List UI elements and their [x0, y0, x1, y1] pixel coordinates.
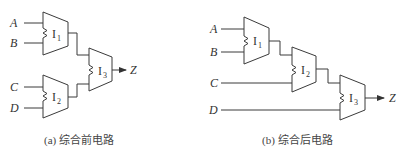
mux-i2-b: I 2 — [292, 47, 316, 92]
diagram-b: I 1 I 2 I 3 A B C D Z (b) 综合后电路 — [208, 17, 396, 147]
instance-label: I — [98, 64, 102, 78]
caption-b: (b) 综合后电路 — [262, 133, 333, 147]
wire-i1-to-i3 — [68, 33, 89, 55]
instance-label: I — [349, 91, 353, 105]
instance-subscript: 2 — [306, 70, 310, 79]
signal-label-a: A — [9, 16, 18, 30]
signal-label-z: Z — [389, 91, 396, 105]
signal-label-d: D — [208, 103, 218, 117]
signal-label-c: C — [10, 80, 19, 94]
wire-i2-to-i3 — [316, 69, 340, 83]
signal-label-b: B — [210, 45, 218, 59]
instance-label: I — [52, 27, 56, 41]
mux-i2-a: I 2 — [43, 75, 68, 118]
instance-subscript: 3 — [103, 71, 107, 80]
signal-label-z: Z — [130, 63, 137, 77]
instance-subscript: 1 — [258, 41, 262, 50]
mux-i1-b: I 1 — [244, 17, 269, 64]
instance-subscript: 1 — [57, 34, 61, 43]
mux-i1-a: I 1 — [43, 12, 68, 55]
circuit-diagrams: I 1 I 2 I 3 A B C D Z (a) 综合前电路 — [0, 0, 401, 158]
wire-i1-to-i2 — [269, 41, 292, 55]
instance-label: I — [52, 90, 56, 104]
mux-i3-b: I 3 — [340, 75, 365, 120]
mux-i3-a: I 3 — [89, 48, 112, 91]
signal-label-d: D — [9, 101, 19, 115]
signal-label-b: B — [10, 36, 18, 50]
instance-label: I — [301, 63, 305, 77]
signal-label-a: A — [209, 22, 218, 36]
diagram-a: I 1 I 2 I 3 A B C D Z (a) 综合前电路 — [9, 12, 137, 147]
signal-label-c: C — [210, 76, 219, 90]
instance-subscript: 3 — [354, 98, 358, 107]
caption-a: (a) 综合前电路 — [44, 133, 114, 147]
instance-label: I — [253, 34, 257, 48]
wire-i2-to-i3 — [68, 84, 89, 97]
instance-subscript: 2 — [57, 97, 61, 106]
